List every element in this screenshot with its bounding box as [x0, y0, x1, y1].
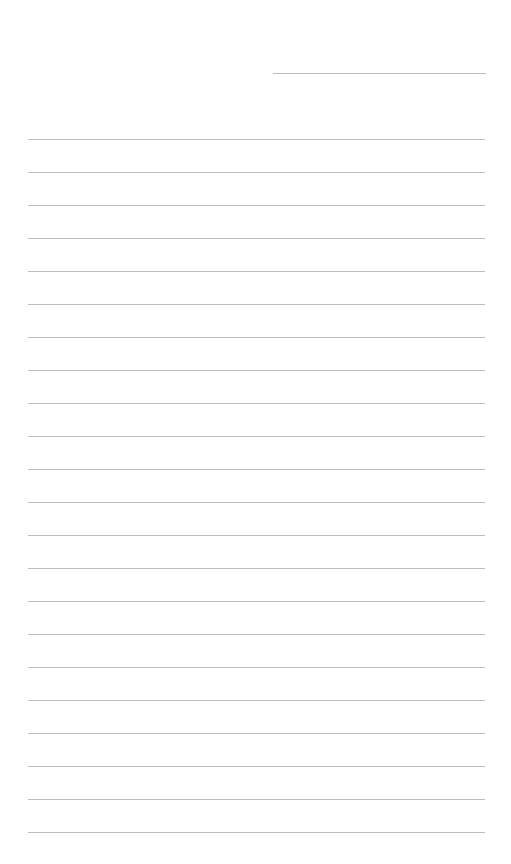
- ruled-line: [28, 238, 485, 239]
- ruled-line: [28, 469, 485, 470]
- ruled-line: [28, 766, 485, 767]
- ruled-line: [28, 370, 485, 371]
- ruled-line: [28, 535, 485, 536]
- ruled-line: [28, 832, 485, 833]
- ruled-line: [28, 568, 485, 569]
- ruled-line: [28, 502, 485, 503]
- lined-page: [0, 0, 511, 864]
- ruled-line: [28, 337, 485, 338]
- ruled-line: [28, 799, 485, 800]
- ruled-line: [28, 139, 485, 140]
- ruled-line: [28, 700, 485, 701]
- ruled-line: [28, 667, 485, 668]
- ruled-line: [28, 403, 485, 404]
- ruled-line: [28, 733, 485, 734]
- ruled-line: [28, 634, 485, 635]
- ruled-line: [28, 271, 485, 272]
- ruled-line: [28, 601, 485, 602]
- ruled-line: [28, 172, 485, 173]
- header-line: [273, 73, 486, 74]
- ruled-line: [28, 436, 485, 437]
- ruled-line: [28, 205, 485, 206]
- ruled-line: [28, 304, 485, 305]
